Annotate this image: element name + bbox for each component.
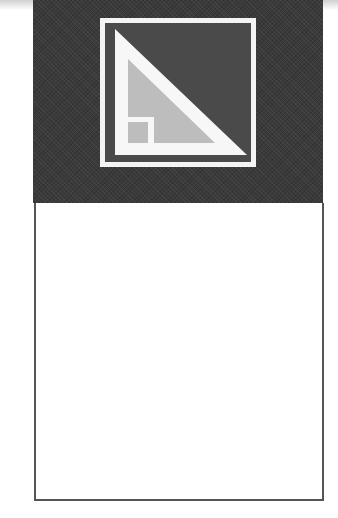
page-canvas (0, 0, 338, 518)
set-square-triangle-logo-icon (0, 0, 338, 210)
logo-vertical-strip (148, 117, 154, 143)
content-box (34, 203, 324, 501)
